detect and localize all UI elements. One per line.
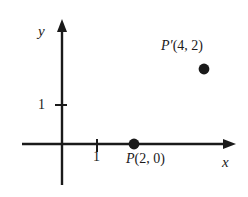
y-axis-arrowhead [57,19,67,32]
data-point-p [129,139,140,150]
data-point-p-prime-label: P′(4, 2) [161,39,203,53]
y-axis-tick-label-1: 1 [38,98,45,112]
coordinate-plane-figure: y x 1 1 P(2, 0) P′(4, 2) [0,0,248,197]
x-axis-tick-label-1: 1 [93,150,100,164]
x-axis-label: x [222,155,229,170]
data-point-p-prime [199,64,210,75]
x-axis-arrowhead [223,139,236,149]
data-point-p-coords: (2, 0) [135,151,165,166]
y-axis-label: y [38,24,45,39]
data-point-p-prime-coords: (4, 2) [173,38,203,53]
data-point-p-name: P [126,151,135,166]
data-point-p-label: P(2, 0) [126,152,165,166]
data-point-p-prime-name: P′ [161,38,173,53]
